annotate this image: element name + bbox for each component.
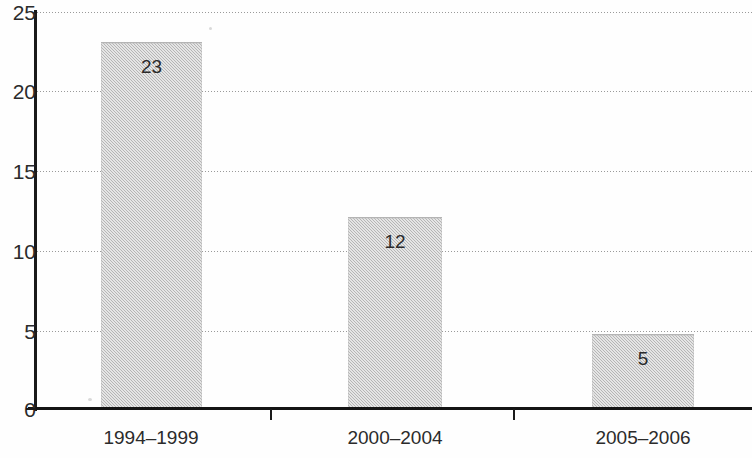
x-axis-line xyxy=(28,407,752,410)
bar-value-label: 5 xyxy=(592,349,694,368)
plot-area: 23 12 5 xyxy=(36,12,752,409)
bar-2000-2004: 12 xyxy=(348,217,442,409)
bar-2005-2006: 5 xyxy=(592,334,694,409)
y-tick-label-15: 15 xyxy=(6,161,36,182)
bar-value-label: 23 xyxy=(101,57,202,76)
y-tick-label-5: 5 xyxy=(6,321,36,342)
x-tick-mark-2 xyxy=(513,409,515,420)
x-category-label-2005-2006: 2005–2006 xyxy=(573,428,713,448)
x-category-label-2000-2004: 2000–2004 xyxy=(325,428,465,448)
bar-chart: 23 12 5 25 20 15 10 5 0 1994–1999 2000–2… xyxy=(0,0,752,458)
y-tick-label-25: 25 xyxy=(6,2,36,23)
bar-value-label: 12 xyxy=(348,232,442,251)
y-tick-mark-0 xyxy=(26,408,35,410)
y-axis-line xyxy=(34,10,37,411)
y-tick-label-20: 20 xyxy=(6,81,36,102)
x-tick-mark-1 xyxy=(270,409,272,420)
x-category-label-1994-1999: 1994–1999 xyxy=(81,428,221,448)
y-tick-label-10: 10 xyxy=(6,241,36,262)
bar-1994-1999: 23 xyxy=(101,42,202,409)
